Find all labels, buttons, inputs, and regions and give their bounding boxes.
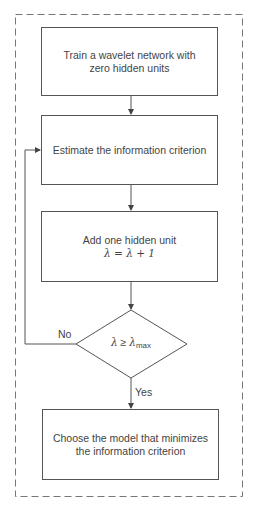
box-add-line2: λ = λ + 1 bbox=[104, 247, 155, 260]
decision-condition: λ ≥ λmax bbox=[96, 336, 166, 350]
box-add: Add one hidden unit λ = λ + 1 bbox=[41, 211, 218, 282]
decision-operator: ≥ bbox=[121, 336, 127, 348]
box-train-line1: Train a wavelet network with bbox=[63, 49, 195, 62]
box-choose-line1: Choose the model that minimizes bbox=[53, 432, 208, 445]
box-add-line1: Add one hidden unit bbox=[83, 234, 176, 247]
box-train: Train a wavelet network with zero hidden… bbox=[41, 27, 218, 96]
yes-label: Yes bbox=[135, 386, 152, 398]
no-label: No bbox=[58, 328, 71, 340]
box-choose-line2: the information criterion bbox=[76, 445, 186, 458]
box-choose: Choose the model that minimizes the info… bbox=[42, 409, 219, 480]
box-estimate-line1: Estimate the information criterion bbox=[53, 144, 206, 157]
box-estimate: Estimate the information criterion bbox=[41, 115, 218, 185]
decision-rhs-subscript: max bbox=[136, 341, 151, 350]
box-train-line2: zero hidden units bbox=[90, 62, 170, 75]
decision-rhs: λ bbox=[129, 336, 136, 348]
decision-symbol: λ bbox=[111, 336, 118, 348]
